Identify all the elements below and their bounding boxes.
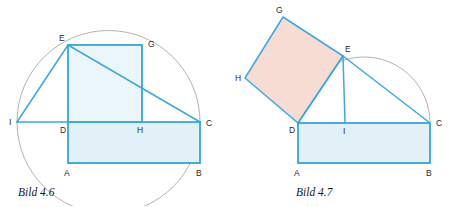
- rectangle-ABCD: [68, 122, 200, 163]
- vertex-label-G-bild-4-6: G: [148, 39, 155, 49]
- vertex-label-C-bild-4-7: C: [436, 118, 442, 128]
- figure-bild-4-6: IDABCHGEBild 4.6: [9, 31, 212, 207]
- vertex-label-D-bild-4-6: D: [60, 125, 66, 135]
- vertex-label-A-bild-4-7: A: [294, 168, 300, 178]
- segment-E-I: [343, 56, 345, 123]
- caption-bild-4-6: Bild 4.6: [18, 186, 55, 198]
- figure-board: IDABCHGEBild 4.6GEHDICABBild 4.7: [0, 0, 459, 206]
- segment-I-E: [17, 45, 68, 122]
- rectangle-ABCD: [298, 123, 430, 163]
- caption-bild-4-7: Bild 4.7: [296, 186, 334, 198]
- vertex-label-H-bild-4-7: H: [235, 73, 241, 83]
- square-DEGH: [68, 45, 142, 122]
- vertex-label-I-bild-4-6: I: [9, 117, 11, 127]
- vertex-label-B-bild-4-7: B: [426, 168, 432, 178]
- vertex-label-H-bild-4-6: H: [137, 125, 143, 135]
- vertex-label-B-bild-4-6: B: [196, 168, 202, 178]
- geometry-diagram-svg: IDABCHGEBild 4.6GEHDICABBild 4.7: [0, 0, 459, 206]
- vertex-label-G-bild-4-7: G: [276, 5, 283, 15]
- vertex-label-I-bild-4-7: I: [343, 126, 345, 136]
- vertex-label-E-bild-4-6: E: [59, 33, 65, 43]
- vertex-label-D-bild-4-7: D: [289, 125, 295, 135]
- vertex-label-C-bild-4-6: C: [206, 118, 212, 128]
- vertex-label-A-bild-4-6: A: [64, 168, 70, 178]
- segment-E-C: [343, 56, 430, 123]
- vertex-label-E-bild-4-7: E: [345, 44, 351, 54]
- square-DEGH: [245, 17, 343, 123]
- figure-bild-4-7: GEHDICABBild 4.7: [235, 5, 442, 198]
